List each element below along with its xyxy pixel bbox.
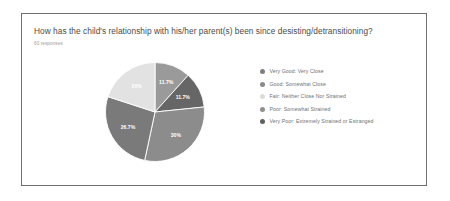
legend-item[interactable]: Fair: Neither Close Nor Strained <box>260 93 410 100</box>
legend-color-swatch-icon <box>260 119 265 124</box>
chart-area: 11.7%11.7%30%26.7%20% Very Good: Very Cl… <box>22 52 426 184</box>
pie-chart: 11.7%11.7%30%26.7%20% <box>105 62 205 162</box>
legend-item-label: Very Good: Very Close <box>270 68 324 75</box>
pie-slice-value-label: 20% <box>132 83 143 89</box>
pie-slice-value-label: 11.7% <box>176 94 191 100</box>
response-count-label: 60 responses <box>34 40 63 47</box>
legend-item[interactable]: Good: Somewhat Close <box>260 81 410 88</box>
pie-slice-value-label: 11.7% <box>159 79 174 85</box>
page-title: How has the child's relationship with hi… <box>34 26 409 37</box>
pie-slice-group <box>105 63 204 162</box>
pie-chart-svg: 11.7%11.7%30%26.7%20% <box>105 62 205 162</box>
legend-item[interactable]: Very Poor: Extremely Strained or Estrang… <box>260 118 410 125</box>
pie-slice-value-label: 26.7% <box>121 124 136 130</box>
chart-legend: Very Good: Very CloseGood: Somewhat Clos… <box>260 68 410 131</box>
legend-color-swatch-icon <box>260 82 265 87</box>
chart-card: How has the child's relationship with hi… <box>21 13 427 186</box>
legend-color-swatch-icon <box>260 107 265 112</box>
legend-item-label: Good: Somewhat Close <box>270 81 326 88</box>
legend-item[interactable]: Poor: Somewhat Strained <box>260 106 410 113</box>
legend-item-label: Very Poor: Extremely Strained or Estrang… <box>270 118 374 125</box>
legend-color-swatch-icon <box>260 69 265 74</box>
legend-color-swatch-icon <box>260 94 265 99</box>
legend-item-label: Poor: Somewhat Strained <box>270 106 331 113</box>
pie-slice-value-label: 30% <box>171 132 182 138</box>
legend-item[interactable]: Very Good: Very Close <box>260 68 410 75</box>
legend-item-label: Fair: Neither Close Nor Strained <box>270 93 346 100</box>
screenshot-root: How has the child's relationship with hi… <box>0 0 450 201</box>
